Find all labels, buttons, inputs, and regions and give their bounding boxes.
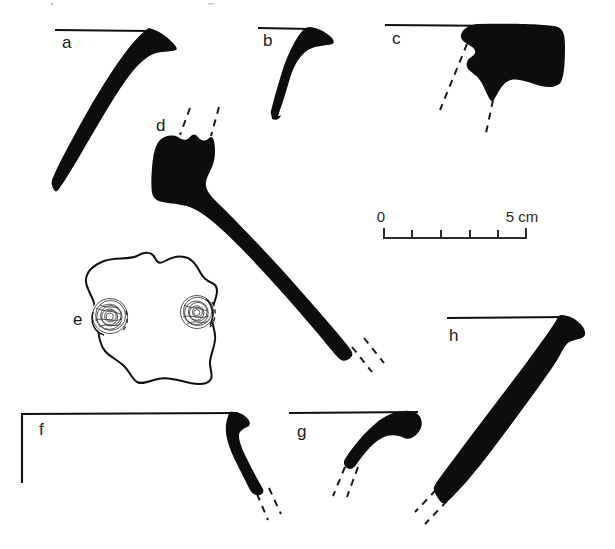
figure-f-label: f [39,420,44,439]
figure-a-rim-line [55,30,150,31]
figure-h-break-dash-left [415,490,436,512]
figure-g-break-dash-right [347,467,358,497]
scan-artifacts [51,3,214,6]
figure-f: f [21,412,281,520]
figure-h-rim-line [447,317,567,318]
figure-a-label: a [62,33,72,52]
figure-c: c [385,24,565,133]
figure-g-label: g [297,422,306,441]
figure-f-body [226,412,264,495]
figure-b-rim-line [258,28,312,29]
figure-d-label: d [156,116,165,135]
figure-c-break-dash-right [486,100,493,133]
figure-e-rivet-boss-left [91,297,129,335]
figure-d-break-dash-upper-right [211,107,219,136]
figure-f-rim-line [21,413,238,414]
figure-g: g [289,411,422,497]
illustration-plate: a b c d [0,0,615,549]
figure-d-break-dash-lower-right [364,338,384,363]
plate-canvas: a b c d [0,0,615,549]
scale-bar-zero-label: 0 [377,208,385,225]
figure-b: b [258,27,334,120]
figure-h-label: h [449,326,458,345]
figure-f-break-dash-right [269,488,281,514]
figure-e-label: e [73,310,82,329]
figure-f-break-dash-left [257,494,268,520]
figure-e-rivet-boss-right [179,294,215,330]
figure-e: e [73,253,217,384]
figure-g-body [344,411,422,469]
figure-g-break-dash-left [333,467,345,496]
scale-bar-max-label: 5 cm [506,208,539,225]
figure-c-break-dash-left [440,44,467,110]
figure-b-label: b [263,31,272,50]
figure-h: h [415,315,585,524]
figure-d-break-dash-lower-left [352,347,372,372]
figure-c-body [461,24,565,101]
figure-b-body [271,27,334,117]
figure-h-break-dash-right [425,501,447,524]
figure-c-label: c [392,29,401,48]
figure-d-break-dash-upper-left [180,108,190,135]
scale-bar: 0 5 cm [377,208,538,238]
